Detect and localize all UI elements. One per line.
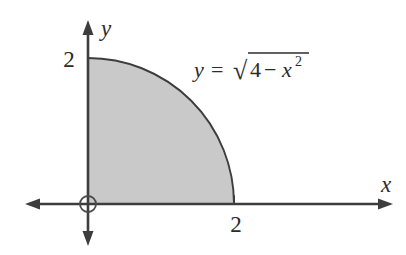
quarter-circle-figure: 2 2 y x y = √ 4 − x 2 [0, 0, 406, 255]
x-axis-label: x [380, 172, 392, 197]
x-axis-tick-label-2: 2 [230, 212, 242, 237]
equation-radicand-exponent: 2 [295, 54, 302, 69]
equation-radicand-first: 4 [250, 57, 261, 82]
equation-radical-icon: √ [233, 56, 248, 85]
x-axis-left-arrow-icon [25, 199, 40, 210]
equation-annotation: y = √ 4 − x 2 [192, 53, 309, 85]
figure-container: 2 2 y x y = √ 4 − x 2 [0, 0, 406, 255]
y-axis-up-arrow-icon [83, 20, 94, 35]
equation-equals: = [211, 57, 223, 82]
x-axis-right-arrow-icon [378, 199, 393, 210]
y-axis-tick-label-2: 2 [63, 47, 75, 72]
y-axis-down-arrow-icon [83, 231, 94, 246]
equation-minus: − [264, 57, 276, 82]
y-axis-label: y [99, 16, 112, 41]
equation-lhs: y [192, 57, 204, 82]
equation-radicand-variable: x [281, 57, 292, 82]
